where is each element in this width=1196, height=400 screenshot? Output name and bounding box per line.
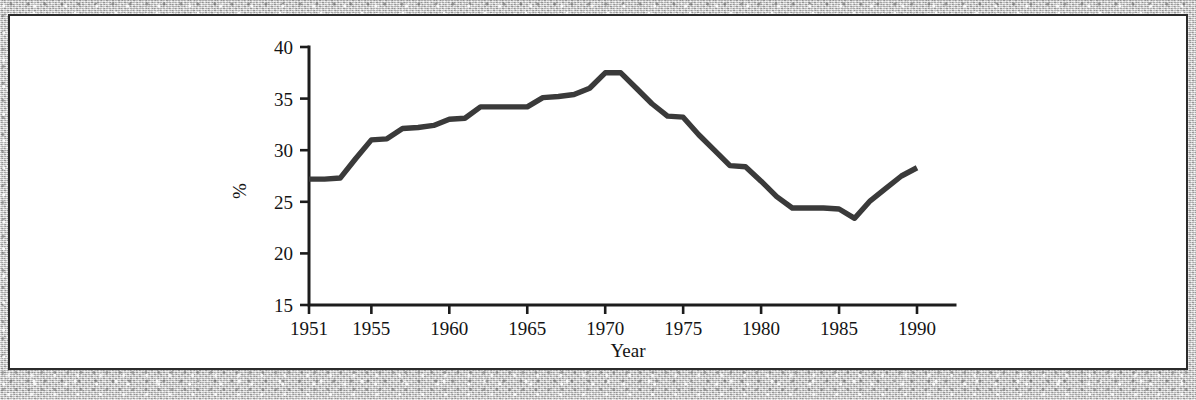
x-tick-label: 1990 bbox=[898, 318, 936, 339]
y-axis-tick-labels: 152025303540 bbox=[274, 37, 293, 316]
x-axis-title: Year bbox=[610, 340, 646, 361]
x-tick-label: 1985 bbox=[820, 318, 858, 339]
figure-panel: 152025303540 195119551960196519701975198… bbox=[8, 14, 1188, 370]
x-tick-label: 1960 bbox=[430, 318, 468, 339]
x-tick-label: 1975 bbox=[664, 318, 702, 339]
x-axis-tick-labels: 195119551960196519701975198019851990 bbox=[290, 318, 936, 339]
y-tick-label: 35 bbox=[274, 89, 293, 110]
data-series-line bbox=[309, 73, 917, 219]
y-tick-label: 25 bbox=[274, 192, 293, 213]
cropped-header-text: · · · · bbox=[0, 0, 1196, 13]
y-tick-label: 15 bbox=[274, 295, 293, 316]
y-tick-label: 20 bbox=[274, 243, 293, 264]
x-tick-label: 1965 bbox=[508, 318, 546, 339]
x-tick-label: 1951 bbox=[290, 318, 328, 339]
y-tick-label: 30 bbox=[274, 140, 293, 161]
x-tick-label: 1970 bbox=[586, 318, 624, 339]
y-axis-title: % bbox=[229, 183, 250, 199]
line-chart: 152025303540 195119551960196519701975198… bbox=[10, 16, 1186, 368]
chart-area: 152025303540 195119551960196519701975198… bbox=[10, 16, 1186, 368]
x-tick-label: 1955 bbox=[352, 318, 390, 339]
y-tick-label: 40 bbox=[274, 37, 293, 58]
x-tick-label: 1980 bbox=[742, 318, 780, 339]
